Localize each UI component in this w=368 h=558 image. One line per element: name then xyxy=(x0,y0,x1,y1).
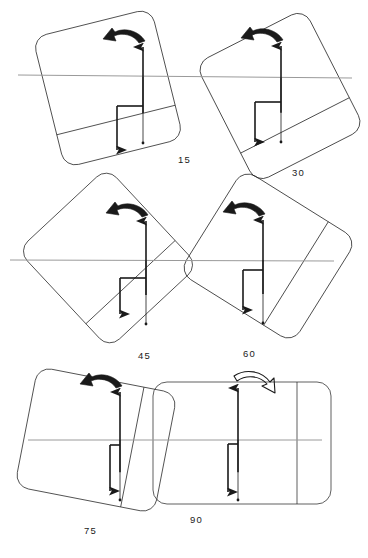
angle-label-60: 60 xyxy=(243,348,256,359)
angle-label-75: 75 xyxy=(84,525,97,536)
reference-lines-layer xyxy=(10,75,352,440)
vector-group-45 xyxy=(106,202,148,325)
arrow-body xyxy=(223,201,265,216)
panel-45 xyxy=(18,167,199,348)
vector-group-60 xyxy=(223,201,265,324)
vector-group-90 xyxy=(228,371,275,501)
angle-label-15: 15 xyxy=(178,154,191,165)
panel-divider xyxy=(57,105,175,135)
arrow-body xyxy=(80,373,122,388)
rotation-arrow-filled-15 xyxy=(103,28,145,43)
vector-group-75 xyxy=(80,373,122,501)
panel-90 xyxy=(153,382,331,504)
stem-endpoint-dot-45 xyxy=(145,323,148,326)
row-2-horizon xyxy=(10,260,334,261)
panel-60 xyxy=(179,169,357,343)
angle-label-45: 45 xyxy=(138,350,151,361)
stem-endpoint-dot-30 xyxy=(280,141,283,144)
panel-divider xyxy=(121,387,144,507)
vector-group-30 xyxy=(241,27,283,143)
vectors-layer xyxy=(80,27,283,501)
rotation-sequence-figure: 153045607590 xyxy=(0,0,368,558)
diagram-canvas: 153045607590 xyxy=(0,0,368,558)
rotation-arrow-filled-30 xyxy=(241,27,283,42)
panel-outline xyxy=(195,9,365,184)
arrow-body xyxy=(103,28,145,43)
rotation-arrow-filled-75 xyxy=(80,373,122,388)
panel-outline xyxy=(153,382,331,504)
panel-divider xyxy=(86,241,175,324)
panel-outline xyxy=(18,167,199,348)
stem-endpoint-dot-90 xyxy=(237,499,240,502)
rotation-arrow-filled-60 xyxy=(223,201,265,216)
stem-endpoint-dot-60 xyxy=(262,322,265,325)
angle-label-90: 90 xyxy=(190,514,203,525)
panel-divider xyxy=(264,222,329,325)
stem-endpoint-dot-75 xyxy=(119,499,122,502)
stem-endpoint-dot-15 xyxy=(142,142,145,145)
panel-30 xyxy=(195,9,365,184)
panel-15 xyxy=(33,8,184,168)
panel-divider xyxy=(241,98,350,153)
arrow-body xyxy=(241,27,283,42)
angle-label-30: 30 xyxy=(292,167,305,178)
panel-outline xyxy=(179,169,357,343)
vector-group-15 xyxy=(103,28,145,150)
panel-outline xyxy=(33,8,184,168)
row-1-horizon xyxy=(18,75,352,78)
